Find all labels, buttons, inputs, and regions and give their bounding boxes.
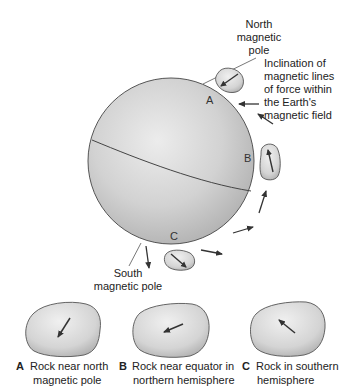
inclination-annotation: Inclination of magnetic lines of force w… <box>264 57 335 121</box>
svg-text:Inclination of: Inclination of <box>264 57 327 69</box>
svg-text:the Earth's: the Earth's <box>264 96 317 108</box>
rock-a-on-globe <box>216 68 244 92</box>
svg-text:magnetic field: magnetic field <box>264 109 332 121</box>
field-arrow-lower-right <box>233 227 253 233</box>
svg-text:pole: pole <box>249 44 270 56</box>
rock-c-on-globe <box>164 250 194 270</box>
svg-text:northern hemisphere: northern hemisphere <box>133 374 235 386</box>
svg-text:hemisphere: hemisphere <box>257 374 314 386</box>
magnetic-inclination-diagram: North magnetic pole A Inclination of mag… <box>0 0 356 392</box>
site-label-a: A <box>206 94 214 106</box>
svg-text:A: A <box>16 360 24 372</box>
field-arrow-b-below <box>259 191 266 213</box>
svg-text:magnetic: magnetic <box>237 31 282 43</box>
svg-text:magnetic pole: magnetic pole <box>33 374 102 386</box>
rock-panel-a: A Rock near north magnetic pole <box>16 302 108 386</box>
svg-text:Rock near equator in: Rock near equator in <box>132 360 234 372</box>
rock-panel-b: B Rock near equator in northern hemisphe… <box>119 303 235 386</box>
svg-text:Rock in southern: Rock in southern <box>256 360 339 372</box>
rock-b-on-globe <box>260 144 280 180</box>
north-pole-label: North magnetic pole <box>237 18 282 56</box>
svg-text:magnetic lines: magnetic lines <box>264 70 335 82</box>
earth-globe <box>88 78 254 244</box>
svg-text:of force within: of force within <box>264 83 332 95</box>
rock-panel-c: C Rock in southern hemisphere <box>242 302 339 386</box>
svg-text:North: North <box>246 18 273 30</box>
svg-text:South: South <box>114 267 143 279</box>
svg-text:magnetic pole: magnetic pole <box>94 280 163 292</box>
field-arrow-c-right <box>201 250 222 254</box>
south-pole-label: South magnetic pole <box>94 267 163 292</box>
svg-text:Rock near north: Rock near north <box>30 360 108 372</box>
site-label-b: B <box>244 152 251 164</box>
site-label-c: C <box>170 230 178 242</box>
field-arrow-south <box>146 246 149 268</box>
svg-text:C: C <box>242 360 250 372</box>
svg-text:B: B <box>119 360 127 372</box>
south-pole-pointer <box>129 243 141 266</box>
